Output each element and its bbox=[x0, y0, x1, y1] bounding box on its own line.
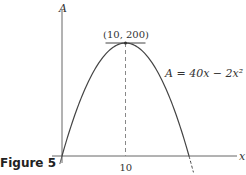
parabola-extension-dashed bbox=[189, 156, 193, 172]
equation-label: A = 40x − 2x² bbox=[164, 67, 243, 80]
y-axis-label: A bbox=[58, 2, 67, 15]
vertex-label: (10, 200) bbox=[103, 29, 149, 40]
x-axis-label: x bbox=[239, 150, 246, 163]
figure-label: Figure 5 bbox=[0, 156, 56, 170]
x-tick-label-10: 10 bbox=[120, 162, 133, 173]
chart: A x (10, 200) A = 40x − 2x² 10 bbox=[0, 0, 246, 175]
vertex-point bbox=[124, 42, 127, 45]
